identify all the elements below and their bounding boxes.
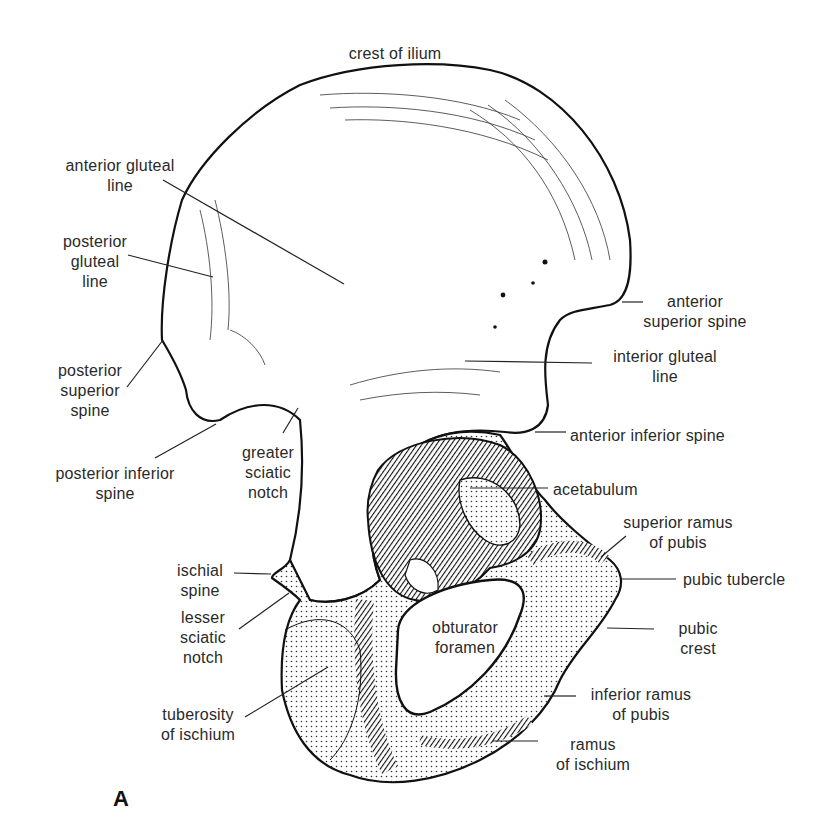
label-acetabulum: acetabulum: [553, 480, 673, 500]
label-pubic-crest: pubic crest: [658, 619, 738, 659]
panel-letter: A: [113, 786, 129, 812]
label-posterior-gluteal-line: posterior gluteal line: [50, 232, 140, 292]
leader-lesser-sciatic-notch: [239, 593, 289, 629]
label-ramus-of-ischium: ramus of ischium: [538, 735, 648, 775]
label-posterior-inferior-spine: posterior inferior spine: [30, 464, 200, 504]
label-interior-gluteal-line: interior gluteal line: [595, 347, 735, 387]
label-crest-of-ilium: crest of ilium: [310, 44, 480, 64]
label-posterior-superior-spine: posterior superior spine: [40, 361, 140, 421]
label-tuberosity-of-ischium: tuberosity of ischium: [148, 705, 248, 745]
leader-posterior-inferior-spine: [155, 424, 216, 458]
label-greater-sciatic-notch: greater sciatic notch: [228, 443, 308, 503]
leader-pubic-crest: [607, 628, 654, 629]
hip-bone-diagram: crest of iliumanterior gluteal lineposte…: [0, 0, 828, 813]
label-superior-ramus-of-pubis: superior ramus of pubis: [608, 513, 748, 553]
label-inferior-ramus-of-pubis: inferior ramus of pubis: [576, 685, 706, 725]
label-lesser-sciatic-notch: lesser sciatic notch: [168, 608, 238, 668]
label-obturator-foramen: obturator foramen: [415, 618, 515, 658]
label-anterior-gluteal-line: anterior gluteal line: [50, 156, 190, 196]
label-ischial-spine: ischial spine: [160, 561, 240, 601]
label-anterior-superior-spine: anterior superior spine: [625, 292, 765, 332]
label-pubic-tubercle: pubic tubercle: [683, 570, 813, 590]
label-anterior-inferior-spine: anterior inferior spine: [570, 426, 770, 446]
